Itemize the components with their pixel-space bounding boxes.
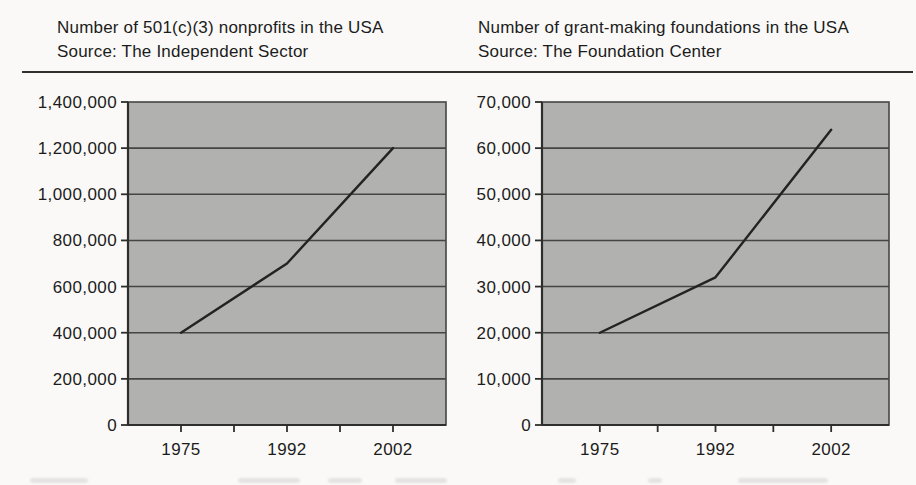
y-tick-label: 0	[107, 416, 117, 435]
left-chart-title: Number of 501(c)(3) nonprofits in the US…	[57, 16, 384, 40]
x-tick-label: 2002	[373, 440, 412, 459]
y-tick-label: 800,000	[53, 231, 117, 250]
foundations-line-chart: 010,00020,00030,00040,00050,00060,00070,…	[458, 85, 916, 470]
x-tick-label: 1975	[161, 440, 200, 459]
y-tick-label: 0	[521, 416, 531, 435]
y-tick-label: 600,000	[53, 278, 117, 297]
nonprofits-line-chart: 0200,000400,000600,000800,0001,000,0001,…	[0, 85, 458, 470]
x-tick-label: 2002	[811, 440, 850, 459]
y-tick-label: 50,000	[477, 185, 531, 204]
cropped-caption-artifact	[0, 477, 916, 485]
y-tick-label: 30,000	[477, 278, 531, 297]
right-chart-title: Number of grant-making foundations in th…	[478, 16, 849, 40]
x-tick-label: 1992	[267, 440, 306, 459]
y-tick-label: 1,200,000	[38, 139, 117, 158]
title-divider-line	[22, 71, 913, 73]
x-tick-label: 1975	[580, 440, 619, 459]
right-chart-source: Source: The Foundation Center	[478, 40, 849, 64]
y-tick-label: 70,000	[477, 93, 531, 112]
y-tick-label: 400,000	[53, 324, 117, 343]
y-tick-label: 20,000	[477, 324, 531, 343]
left-chart-source: Source: The Independent Sector	[57, 40, 384, 64]
right-chart-title-block: Number of grant-making foundations in th…	[478, 16, 849, 64]
y-tick-label: 60,000	[477, 139, 531, 158]
left-chart-title-block: Number of 501(c)(3) nonprofits in the US…	[57, 16, 384, 64]
y-tick-label: 10,000	[477, 370, 531, 389]
y-tick-label: 200,000	[53, 370, 117, 389]
y-tick-label: 40,000	[477, 231, 531, 250]
y-tick-label: 1,000,000	[38, 185, 117, 204]
plot-area	[542, 102, 889, 425]
x-tick-label: 1992	[696, 440, 735, 459]
y-tick-label: 1,400,000	[38, 93, 117, 112]
